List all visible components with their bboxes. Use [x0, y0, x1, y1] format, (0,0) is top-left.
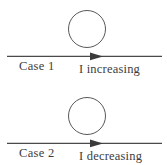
case-label: Case 2	[19, 146, 54, 161]
circle-loop-icon	[68, 10, 106, 48]
current-direction-label: I increasing	[79, 62, 140, 77]
case-label: Case 1	[19, 59, 54, 74]
case-2-group: Case 2 I decreasing	[0, 87, 167, 165]
circle-loop-icon	[68, 97, 106, 135]
induction-figure: Case 1 I increasing Case 2 I decreasing	[0, 0, 167, 165]
current-direction-label: I decreasing	[79, 149, 142, 164]
case-1-group: Case 1 I increasing	[0, 0, 167, 83]
